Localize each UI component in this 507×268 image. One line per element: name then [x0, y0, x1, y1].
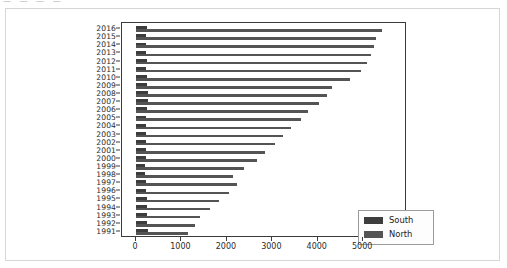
bar-north	[136, 70, 361, 73]
bar-group	[136, 49, 395, 57]
bar-group	[136, 98, 395, 106]
bar-north	[136, 167, 244, 170]
y-tick-mark	[116, 52, 120, 53]
x-tick-label: 4000	[307, 242, 327, 251]
y-tick-mark	[116, 190, 120, 191]
screenshot-root: — — — — 20162015201420132012201120102009…	[0, 0, 507, 268]
bar-group	[136, 212, 395, 220]
y-tick-mark	[116, 230, 120, 231]
y-tick-mark	[116, 84, 120, 85]
bar-group	[136, 147, 395, 155]
y-tick-mark	[116, 76, 120, 77]
x-tick-label: 0	[132, 242, 137, 251]
legend-label-south: South	[389, 216, 413, 224]
y-tick-mark	[116, 117, 120, 118]
x-tick-mark	[135, 237, 136, 241]
y-tick-mark	[116, 174, 120, 175]
x-tick-mark	[180, 237, 181, 241]
y-tick-label: 1991	[96, 226, 116, 235]
bar-north	[136, 216, 200, 219]
clipped-header-artifact: — — — —	[3, 0, 64, 6]
bar-group	[136, 33, 395, 41]
bar-group	[136, 82, 395, 90]
bar-group	[136, 195, 395, 203]
bar-group	[136, 204, 395, 212]
chart-card: 2016201520142013201220112010200920082007…	[5, 8, 500, 261]
plot-area	[136, 25, 395, 234]
bar-group	[136, 106, 395, 114]
bar-group	[136, 122, 395, 130]
bar-group	[136, 155, 395, 163]
bar-group	[136, 74, 395, 82]
y-tick-mark	[116, 68, 120, 69]
y-tick-mark	[116, 92, 120, 93]
bar-north	[136, 159, 257, 162]
x-tick-label: 2000	[216, 242, 236, 251]
y-tick-mark	[116, 44, 120, 45]
y-tick-mark	[116, 125, 120, 126]
legend-item-south: South	[364, 215, 428, 226]
bar-north	[136, 110, 308, 113]
y-tick-mark	[116, 214, 120, 215]
bar-north	[136, 86, 332, 89]
bar-group	[136, 139, 395, 147]
bar-north	[136, 208, 210, 211]
x-tick-mark	[317, 237, 318, 241]
y-tick-mark	[116, 60, 120, 61]
y-tick-mark	[116, 166, 120, 167]
bar-north	[136, 62, 367, 65]
bar-group	[136, 163, 395, 171]
bar-north	[136, 118, 301, 121]
bar-north	[136, 78, 350, 81]
bar-north	[136, 232, 188, 235]
x-tick-label: 1000	[170, 242, 190, 251]
bar-group	[136, 41, 395, 49]
y-tick-mark	[116, 109, 120, 110]
y-axis-labels: 2016201520142013201220112010200920082007…	[6, 22, 121, 237]
y-tick-mark	[116, 206, 120, 207]
plot-axes: South North	[121, 22, 406, 237]
bar-north	[136, 175, 233, 178]
bar-north	[136, 54, 371, 57]
bar-north	[136, 192, 229, 195]
bar-north	[136, 151, 265, 154]
bar-group	[136, 66, 395, 74]
bar-north	[136, 224, 195, 227]
bar-group	[136, 228, 395, 236]
bar-group	[136, 220, 395, 228]
x-tick-mark	[226, 237, 227, 241]
x-axis-labels: 010002000300040005000	[121, 237, 406, 259]
bar-group	[136, 187, 395, 195]
bar-group	[136, 25, 395, 33]
x-tick-label: 3000	[261, 242, 281, 251]
bar-north	[136, 94, 327, 97]
x-tick-mark	[271, 237, 272, 241]
y-tick-mark	[116, 149, 120, 150]
bar-north	[136, 29, 382, 32]
y-tick-mark	[116, 198, 120, 199]
legend-swatch-south	[364, 217, 383, 224]
y-tick-mark	[116, 157, 120, 158]
bar-north	[136, 200, 219, 203]
y-tick-mark	[116, 133, 120, 134]
bar-group	[136, 131, 395, 139]
bar-north	[136, 143, 275, 146]
x-tick-label: 5000	[352, 242, 372, 251]
bar-group	[136, 179, 395, 187]
bar-group	[136, 90, 395, 98]
y-tick-mark	[116, 101, 120, 102]
x-tick-mark	[362, 237, 363, 241]
bar-north	[136, 45, 374, 48]
y-tick-mark	[116, 222, 120, 223]
bar-north	[136, 37, 376, 40]
bar-north	[136, 183, 237, 186]
bar-north	[136, 135, 283, 138]
y-tick-mark	[116, 28, 120, 29]
y-tick-mark	[116, 182, 120, 183]
bar-north	[136, 102, 319, 105]
bar-group	[136, 171, 395, 179]
bar-north	[136, 127, 291, 130]
y-tick-mark	[116, 36, 120, 37]
y-tick-mark	[116, 141, 120, 142]
bar-group	[136, 57, 395, 65]
